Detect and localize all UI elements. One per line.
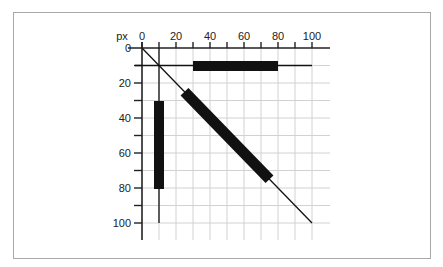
coordinate-diagram: px 0 20 40 60 80 100 0 20 40 60 80 100 bbox=[0, 0, 443, 267]
svg-text:40: 40 bbox=[204, 30, 216, 42]
svg-text:20: 20 bbox=[170, 30, 182, 42]
svg-text:60: 60 bbox=[238, 30, 250, 42]
x-tick-labels: 0 20 40 60 80 100 bbox=[139, 30, 321, 42]
svg-text:60: 60 bbox=[119, 147, 131, 159]
svg-text:100: 100 bbox=[303, 30, 321, 42]
y-tick-labels: 0 20 40 60 80 100 bbox=[113, 42, 131, 229]
svg-text:40: 40 bbox=[119, 112, 131, 124]
vertical-thick-bar bbox=[154, 101, 164, 189]
unit-label: px bbox=[116, 30, 128, 42]
x-axis-ticks bbox=[142, 42, 312, 48]
horizontal-thick-bar bbox=[193, 61, 278, 71]
svg-text:100: 100 bbox=[113, 217, 131, 229]
svg-text:80: 80 bbox=[119, 182, 131, 194]
svg-text:80: 80 bbox=[272, 30, 284, 42]
svg-text:0: 0 bbox=[139, 30, 145, 42]
y-axis-ticks bbox=[134, 66, 142, 224]
svg-text:20: 20 bbox=[119, 77, 131, 89]
svg-text:0: 0 bbox=[125, 42, 131, 54]
